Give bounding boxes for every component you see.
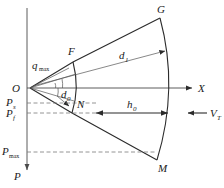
label-d1-subscript: 1 (125, 56, 129, 64)
label-axis-x: X (197, 82, 206, 94)
label-point-n: N (76, 98, 85, 110)
label-vt-subscript: T (217, 114, 222, 122)
label-angle-qmax-symbol: q (32, 59, 38, 71)
label-pmax-subscript: max (9, 153, 19, 159)
label-angle-qmax: q max (32, 59, 49, 72)
label-origin-o: O (12, 82, 20, 94)
label-ps-subscript: s (13, 103, 16, 111)
label-pf-symbol: P (5, 107, 13, 119)
label-d0-subscript: 0 (67, 95, 71, 103)
h0-measure-line (96, 110, 168, 116)
label-p-level-pmax: P max (1, 145, 19, 159)
upper-sector-edge (30, 18, 160, 88)
label-point-f: F (67, 45, 75, 57)
lower-sector-edge (30, 88, 157, 160)
label-axis-p: P (13, 170, 21, 182)
label-angle-qmax-subscript: max (39, 66, 49, 72)
label-pmax-symbol: P (1, 145, 9, 157)
label-h0-subscript: 0 (133, 105, 137, 113)
label-vt: V T (210, 107, 222, 122)
d1-measure-line (33, 51, 165, 86)
geometry-diagram-svg: O X P F G N M q max d 1 d 0 h 0 (0, 0, 224, 188)
label-h0: h 0 (127, 98, 137, 113)
outer-arc-gm (157, 18, 169, 160)
diagram-canvas: O X P F G N M q max d 1 d 0 h 0 (0, 0, 224, 188)
label-point-m: M (157, 162, 168, 174)
inner-arc-fn (72, 62, 76, 113)
p-level-dashed-lines (27, 103, 157, 152)
label-pf-subscript: f (13, 114, 16, 122)
label-point-g: G (157, 3, 165, 15)
